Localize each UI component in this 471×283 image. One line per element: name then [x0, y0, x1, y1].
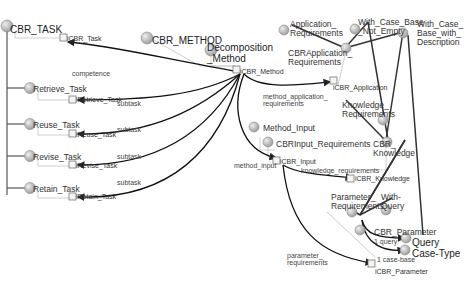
class-node-cbrapplication_requirements[interactable]: CBRApplication_ Requirements — [288, 49, 352, 67]
edge-label-9: 1 query — [374, 238, 397, 245]
class-node-retain_task[interactable]: Retain_Task — [33, 185, 80, 194]
class-node-cbr_parameter[interactable]: CBR_Parameter — [374, 228, 436, 237]
instance-node-icbr_method[interactable]: iCBR_Method — [240, 68, 284, 75]
class-node-decomposition_method[interactable]: Decomposition _Method — [207, 43, 273, 64]
class-node-with_query[interactable]: With- Query — [381, 193, 404, 211]
edge-label-0: competence — [72, 70, 110, 77]
edge-label-1: subtask — [117, 100, 141, 107]
class-node-method_input[interactable]: Method_Input — [263, 124, 315, 133]
instance-node-icbr_application[interactable]: iCBR_Application — [333, 84, 387, 91]
class-node-application_requirements[interactable]: Application_ Requirements — [290, 20, 343, 38]
class-node-revise_task[interactable]: Revise_Task — [33, 153, 81, 162]
class-node-with_case_base_not_empty[interactable]: With_Case_Base _Not_Empty — [358, 18, 424, 36]
instance-cubes — [60, 34, 375, 267]
class-node-cbr_task[interactable]: CBR_TASK — [10, 25, 62, 36]
class-node-with_case_base_with_description[interactable]: With_Case_ Base_with_ Description — [417, 20, 463, 47]
ontology-diagram: CBR_TASKRetrieve_TaskReuse_TaskRevise_Ta… — [0, 0, 471, 283]
edge-label-10: 1 case-base — [377, 256, 415, 263]
edge-label-7: knowledge_requirements — [301, 167, 379, 174]
edge-label-2: subtask — [117, 126, 141, 133]
edge-label-6: method_input — [234, 162, 276, 169]
edge-label-5: method_application_ requirements — [263, 93, 328, 108]
class-node-retrieve_task[interactable]: Retrieve_Task — [33, 85, 87, 94]
class-node-reuse_task[interactable]: Reuse_Task — [33, 121, 80, 130]
instance-node-icbr_parameter[interactable]: iCBR_Parameter — [375, 268, 428, 275]
class-node-query[interactable]: Query — [412, 238, 439, 249]
instance-node-icbr_knowledge[interactable]: iCBR_Knowledge — [355, 175, 410, 182]
instance-node-icbr_task[interactable]: iCBR_Task — [67, 35, 102, 42]
class-node-case_type[interactable]: Case-Type — [412, 249, 460, 260]
class-node-cbrinput_requirements[interactable]: CBRInput_Requirements — [276, 140, 371, 149]
instance-node-icbr_retain_task[interactable]: iRetain_Task — [76, 193, 116, 200]
class-node-cbr_knowledge[interactable]: CBR_ Knowledge — [373, 140, 415, 158]
edge-label-3: subtask — [117, 153, 141, 160]
class-node-parameter_requirements[interactable]: Parameter_ Requirements — [331, 193, 384, 211]
instance-node-icbr_revise_task[interactable]: iRevise_Task — [76, 162, 117, 169]
class-node-knowledge_requirements[interactable]: Knowledge_ Requirements — [342, 101, 395, 119]
instance-node-icbr_reuse_task[interactable]: iReuse_Task — [76, 131, 116, 138]
edge-label-4: subtask — [117, 179, 141, 186]
instance-node-icbr_input[interactable]: iCBR_Input — [280, 158, 316, 165]
edge-label-8: parameter_ requirements — [287, 252, 328, 267]
instance-node-icbr_retrieve_task[interactable]: iRetrieve_Task — [76, 96, 122, 103]
task-hierarchy — [7, 30, 30, 195]
